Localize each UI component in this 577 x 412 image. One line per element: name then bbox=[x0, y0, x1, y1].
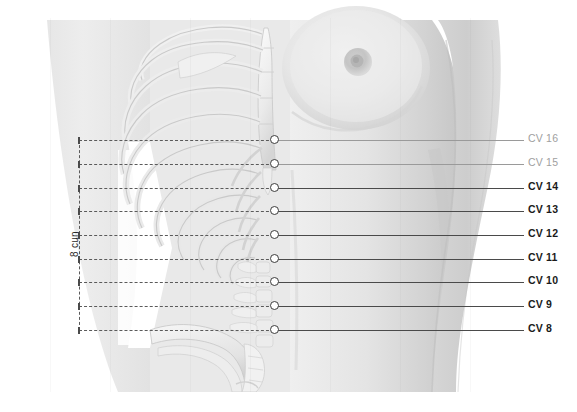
anatomy-illustration bbox=[0, 0, 577, 412]
right-surface-half bbox=[282, 6, 460, 392]
illustration-stage: 8 cun CV 16CV 15CV 14CV 13CV 12CV 11CV 1… bbox=[0, 0, 577, 412]
